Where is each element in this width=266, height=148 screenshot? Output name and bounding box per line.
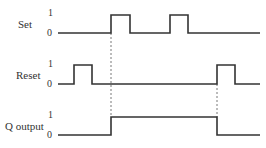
waveform-q-output [58,117,260,135]
timing-waveforms [0,0,266,148]
waveform-set [58,15,260,33]
waveform-reset [58,65,260,84]
